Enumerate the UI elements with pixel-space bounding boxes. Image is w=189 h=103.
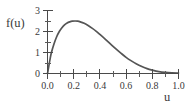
x-tick-label-1: 0.2: [67, 80, 80, 91]
y-tick-label-0: 0: [35, 68, 40, 79]
x-tick-label-4: 0.8: [146, 80, 159, 91]
x-tick-label-3: 0.6: [120, 80, 133, 91]
x-tick-label-5: 1.0: [172, 80, 185, 91]
x-tick-label-2: 0.4: [94, 80, 107, 91]
y-tick-label-2: 2: [35, 26, 40, 37]
x-axis-label: u: [164, 90, 171, 103]
y-axis-label: f(u): [6, 16, 25, 30]
x-tick-label-0: 0.0: [41, 80, 54, 91]
y-tick-label-3: 3: [35, 5, 40, 16]
y-tick-label-1: 1: [35, 47, 40, 58]
chart-figure: 3 2 1 0 0.0 0.2 0.4 0.6 0.8 1.0 f(u) u: [0, 0, 189, 103]
